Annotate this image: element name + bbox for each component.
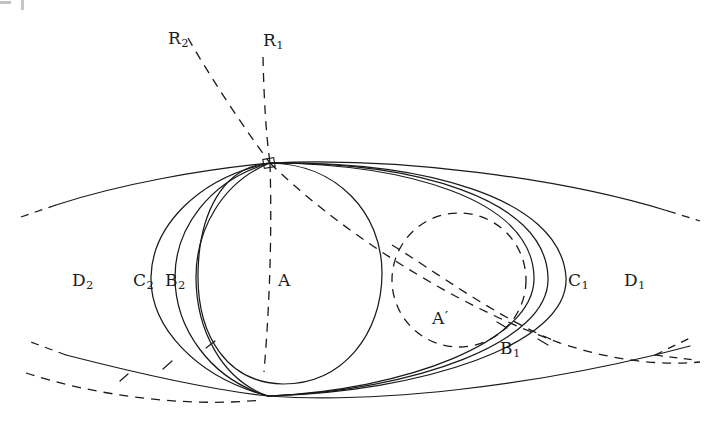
subscript-c1: 1 (581, 278, 588, 292)
label-region-b1: B1 (500, 340, 520, 360)
ray-r2-upper (188, 38, 270, 163)
curve-d2-lower-dashed-tail (28, 341, 66, 355)
curve-d1-lower-solid-ext (655, 346, 690, 355)
ray-r2-tail-lower-right (655, 355, 694, 360)
subscript-b1: 1 (513, 346, 520, 360)
curve-d1-upper-solid (270, 162, 668, 211)
label-ray-r1: R1 (263, 32, 284, 52)
chord-a-prime-lower-left (392, 245, 560, 343)
prime-mark-a: ′ (445, 308, 448, 326)
curve-d2-upper-solid (56, 163, 270, 205)
tick-right-lower (538, 339, 548, 345)
label-region-c2: C2 (133, 272, 154, 292)
subscript-c2: 2 (146, 278, 153, 292)
curve-d2-lower-solid (66, 355, 268, 396)
subscript-b2: 2 (178, 278, 185, 292)
tick-left-lowest (120, 374, 128, 381)
curve-d2-outer-dashed (26, 373, 262, 402)
tick-left-lower (163, 361, 172, 369)
subscript-d2: 2 (86, 278, 93, 292)
label-region-b2: B2 (165, 272, 185, 292)
curve-d2-upper-dashed-tail (18, 205, 56, 218)
curve-d1-upper-dashed-tail (668, 211, 700, 221)
label-circle-a-prime: A′ (432, 310, 448, 327)
geometry-figure (0, 0, 718, 424)
label-region-d2: D2 (72, 272, 93, 292)
curve-b1-arc (268, 163, 548, 396)
diagram-canvas: A A′ B1 B2 C1 C2 D1 D2 R1 R2 (0, 0, 718, 424)
subscript-r1: 1 (276, 38, 283, 52)
label-circle-a: A (278, 272, 290, 289)
curve-b2-inner-arc (196, 163, 270, 396)
curve-c1-arc (268, 163, 566, 396)
tick-right-upper (497, 322, 507, 328)
label-region-c1: C1 (568, 272, 589, 292)
label-region-d1: D1 (624, 272, 645, 292)
subscript-d1: 1 (638, 278, 645, 292)
ray-r1-upper (263, 57, 270, 163)
ray-r2-tail-upper-right (655, 337, 692, 355)
label-ray-r2: R2 (168, 30, 189, 50)
ray-r1-lower (264, 163, 271, 372)
subscript-r2: 2 (181, 36, 188, 50)
